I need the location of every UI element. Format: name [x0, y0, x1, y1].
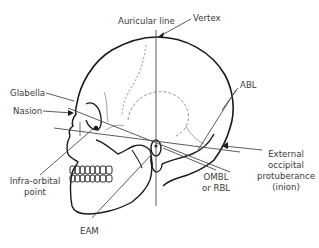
infra-orbital-label-line2: point: [5, 187, 65, 198]
eam-label: EAM: [80, 226, 99, 237]
ombl-label: OMBL or RBL: [196, 172, 236, 194]
external-occipital-protuberance-label: External occipital protuberance (inion): [254, 149, 318, 193]
ombl-leader: [163, 148, 216, 170]
nasion-leader: [43, 111, 72, 113]
squamous-suture: [128, 92, 188, 136]
upper-teeth: [70, 166, 112, 174]
mandible-outline: [71, 162, 153, 214]
ombl-label-line2: or RBL: [196, 183, 236, 194]
vertex-label: Vertex: [193, 13, 221, 24]
glabella-leader: [46, 93, 74, 101]
ombl-label-line1: OMBL: [196, 172, 236, 183]
eop-label-line3: protuberance: [254, 171, 318, 182]
glabella-label: Glabella: [10, 88, 45, 99]
abl-leader: [222, 88, 238, 110]
cranium-outline: [77, 37, 233, 178]
auricular-line-label: Auricular line: [118, 16, 175, 27]
infra-orbital-label-line1: Infra-orbital: [5, 176, 65, 187]
lower-teeth: [70, 175, 112, 182]
eam-leader: [92, 154, 152, 218]
eop-label-line4: (inion): [254, 182, 318, 193]
abl-label: ABL: [240, 80, 257, 91]
skull-diagram: Auricular line Vertex Glabella Nasion AB…: [0, 0, 319, 248]
nasion-label: Nasion: [13, 106, 42, 117]
infraorbital-leader: [40, 128, 94, 175]
nasal-maxilla-outline: [67, 136, 78, 174]
infra-orbital-label: Infra-orbital point: [5, 176, 65, 198]
skull-drawing: [0, 0, 319, 248]
infraorbital-line: [54, 128, 240, 152]
eop-label-line2: occipital: [254, 160, 318, 171]
eop-label-line1: External: [254, 149, 318, 160]
zygomatic-arch: [96, 140, 152, 168]
